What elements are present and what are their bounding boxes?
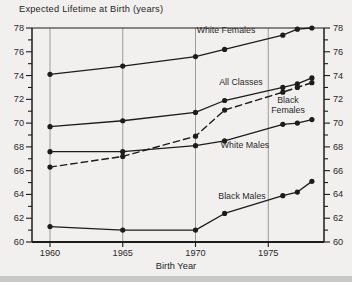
series-label-black-males: Black Males <box>218 191 265 201</box>
data-point-black-males <box>309 179 314 184</box>
series-label-all-classes: All Classes <box>219 77 263 87</box>
data-point-white-males <box>309 117 314 122</box>
data-point-all-classes <box>193 110 198 115</box>
series-label-white-males: White Males <box>221 140 269 150</box>
data-point-white-males <box>120 149 125 154</box>
x-tick-label: 1975 <box>258 248 278 258</box>
data-point-black-females <box>47 165 52 170</box>
series-line-white-males <box>50 120 312 152</box>
y-tick-label-left: 68 <box>14 142 24 152</box>
data-point-white-males <box>47 149 52 154</box>
x-tick-label: 1960 <box>40 248 60 258</box>
data-point-all-classes <box>222 98 227 103</box>
data-point-white-males <box>280 122 285 127</box>
data-point-all-classes <box>120 118 125 123</box>
data-point-black-females <box>120 154 125 159</box>
y-tick-label-right: 70 <box>333 118 343 128</box>
y-tick-label-right: 72 <box>333 94 343 104</box>
chart-page: Expected Lifetime at Birth (years) 60606… <box>0 0 352 282</box>
series-label-black-females: Black Females <box>271 95 305 115</box>
data-point-white-females <box>280 33 285 38</box>
data-point-all-classes <box>309 75 314 80</box>
data-point-white-females <box>309 25 314 30</box>
y-tick-label-left: 76 <box>14 47 24 57</box>
x-tick-label: 1970 <box>185 248 205 258</box>
y-tick-label-right: 66 <box>333 166 343 176</box>
data-point-black-males <box>222 211 227 216</box>
page-edge-strip <box>0 276 352 282</box>
data-point-black-females <box>295 85 300 90</box>
y-tick-label-right: 78 <box>333 23 343 33</box>
y-tick-label-left: 78 <box>14 23 24 33</box>
y-tick-label-left: 74 <box>14 71 24 81</box>
x-tick-label: 1965 <box>113 248 133 258</box>
data-point-black-males <box>280 193 285 198</box>
data-point-white-females <box>47 72 52 77</box>
data-point-black-females <box>222 107 227 112</box>
data-point-black-males <box>295 189 300 194</box>
y-tick-label-left: 72 <box>14 94 24 104</box>
series-label-white-females: White Females <box>197 25 256 35</box>
y-tick-label-left: 62 <box>14 213 24 223</box>
data-point-white-females <box>120 63 125 68</box>
data-point-black-males <box>120 228 125 233</box>
data-point-black-females <box>193 134 198 139</box>
chart-canvas: 6060626264646666686870707272747476767878… <box>0 0 352 282</box>
series-line-white-females <box>50 28 312 74</box>
y-tick-label-right: 68 <box>333 142 343 152</box>
data-point-white-females <box>193 54 198 59</box>
data-point-white-males <box>193 143 198 148</box>
data-point-black-males <box>47 224 52 229</box>
data-point-black-males <box>193 228 198 233</box>
y-tick-label-right: 76 <box>333 47 343 57</box>
data-point-white-females <box>222 47 227 52</box>
data-point-all-classes <box>280 85 285 90</box>
series-line-black-males <box>50 181 312 230</box>
y-tick-label-left: 66 <box>14 166 24 176</box>
y-tick-label-left: 64 <box>14 189 24 199</box>
data-point-white-males <box>295 121 300 126</box>
data-point-all-classes <box>47 124 52 129</box>
y-tick-label-right: 62 <box>333 213 343 223</box>
y-tick-label-right: 60 <box>333 237 343 247</box>
y-tick-label-right: 64 <box>333 189 343 199</box>
y-tick-label-right: 74 <box>333 71 343 81</box>
y-tick-label-left: 60 <box>14 237 24 247</box>
y-tick-label-left: 70 <box>14 118 24 128</box>
x-axis-title: Birth Year <box>156 261 196 271</box>
data-point-black-females <box>309 80 314 85</box>
data-point-white-females <box>295 27 300 32</box>
